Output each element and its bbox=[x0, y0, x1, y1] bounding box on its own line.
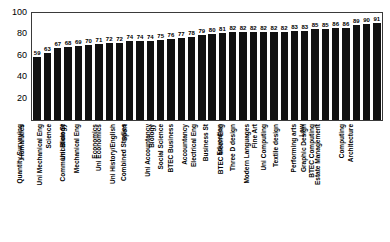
bar bbox=[208, 34, 215, 120]
bars-layer: 5963676869707172727474747576777879808182… bbox=[32, 13, 382, 120]
y-tick-label: 20 bbox=[17, 94, 27, 103]
bar-slot: 71 bbox=[95, 13, 102, 120]
bar-slot: 67 bbox=[54, 13, 61, 120]
y-axis: 10080604020 bbox=[0, 12, 30, 120]
bar-slot: 72 bbox=[106, 13, 113, 120]
x-tick-label: Uni Mechanical Eng bbox=[36, 124, 43, 185]
bar bbox=[44, 53, 51, 120]
bar-slot: 83 bbox=[291, 13, 298, 120]
x-tick-label: Uni Computing bbox=[260, 124, 267, 171]
bar bbox=[301, 31, 308, 120]
bar bbox=[126, 41, 133, 120]
bar bbox=[239, 32, 246, 120]
bar-value-label: 69 bbox=[75, 39, 82, 45]
bar bbox=[136, 41, 143, 120]
bar-value-label: 74 bbox=[126, 34, 133, 40]
bar bbox=[167, 39, 174, 120]
bar bbox=[95, 44, 102, 120]
bar bbox=[363, 24, 370, 120]
bar-value-label: 82 bbox=[250, 25, 257, 31]
bar-slot: 77 bbox=[178, 13, 185, 120]
bar-slot: 86 bbox=[342, 13, 349, 120]
bar-value-label: 68 bbox=[65, 40, 72, 46]
bar-value-label: 67 bbox=[54, 41, 61, 47]
plot-area: 5963676869707172727474747576777879808182… bbox=[31, 12, 383, 121]
x-tick-label: Textile design bbox=[272, 124, 279, 167]
x-tick-label: Estate Management bbox=[314, 124, 321, 185]
bar-slot: 76 bbox=[167, 13, 174, 120]
y-tick-label: 100 bbox=[12, 8, 27, 17]
bar-chart: 10080604020 5963676869707172727474747576… bbox=[0, 0, 390, 242]
x-tick-label: BTEC Mech Eng bbox=[217, 124, 224, 174]
bar bbox=[157, 40, 164, 120]
bar-slot: 86 bbox=[332, 13, 339, 120]
x-tick-label: Social Science bbox=[157, 124, 164, 170]
x-tick-label: Science bbox=[44, 124, 51, 149]
bar-slot: 82 bbox=[250, 13, 257, 120]
bar-value-label: 91 bbox=[374, 16, 381, 22]
bar bbox=[188, 37, 195, 120]
bar bbox=[198, 35, 205, 120]
bar-slot: 79 bbox=[198, 13, 205, 120]
y-tick-label: 80 bbox=[17, 29, 27, 38]
bar-value-label: 59 bbox=[34, 50, 41, 56]
bar-slot: 78 bbox=[188, 13, 195, 120]
bar-value-label: 81 bbox=[219, 26, 226, 32]
bar bbox=[33, 57, 40, 120]
bar bbox=[260, 32, 267, 120]
bar bbox=[322, 29, 329, 120]
bar-value-label: 82 bbox=[229, 25, 236, 31]
x-tick-label: Combined Studies bbox=[121, 124, 128, 181]
x-tick-label: Uni Accountancy bbox=[144, 124, 151, 177]
bar bbox=[229, 32, 236, 120]
bar bbox=[147, 41, 154, 120]
x-tick-label: Communication St bbox=[59, 124, 66, 181]
bar-slot: 85 bbox=[311, 13, 318, 120]
bar-slot: 83 bbox=[301, 13, 308, 120]
x-tick-label: Accountancy bbox=[180, 124, 187, 165]
x-tick-label: Uni Economics bbox=[95, 124, 102, 171]
x-tick-label: BTEC Business bbox=[166, 124, 173, 172]
x-tick-label: Uni History/English bbox=[109, 124, 116, 184]
bar-value-label: 79 bbox=[199, 28, 206, 34]
x-tick-label: Fine Art bbox=[250, 124, 257, 148]
bar-slot: 91 bbox=[373, 13, 380, 120]
bar-value-label: 80 bbox=[209, 27, 216, 33]
bar bbox=[342, 28, 349, 120]
bar-value-label: 70 bbox=[85, 38, 92, 44]
bar-slot: 68 bbox=[64, 13, 71, 120]
bar-value-label: 75 bbox=[157, 33, 164, 39]
bar-slot: 89 bbox=[353, 13, 360, 120]
x-axis: HumanitiesQuantity SurveyingScienceUni M… bbox=[31, 122, 383, 242]
bar-value-label: 83 bbox=[301, 24, 308, 30]
x-tick-label: Computing bbox=[338, 124, 345, 158]
bar-value-label: 72 bbox=[116, 36, 123, 42]
x-tick-slot: Uni Computing bbox=[278, 122, 288, 242]
bar-value-label: 77 bbox=[178, 31, 185, 37]
bar-slot: 85 bbox=[322, 13, 329, 120]
bar bbox=[270, 32, 277, 120]
y-tick-label: 40 bbox=[17, 72, 27, 81]
bar-value-label: 63 bbox=[44, 46, 51, 52]
bar-value-label: 82 bbox=[271, 25, 278, 31]
bar-value-label: 74 bbox=[147, 34, 154, 40]
bar bbox=[54, 48, 61, 120]
bar-slot: 82 bbox=[239, 13, 246, 120]
x-tick-label: Graphic Design bbox=[300, 124, 307, 172]
x-tick-label: Modern Languages bbox=[243, 124, 250, 184]
bar bbox=[178, 38, 185, 120]
x-tick-label: Business St bbox=[203, 124, 210, 161]
bar-slot: 59 bbox=[33, 13, 40, 120]
x-tick-label: Architecture bbox=[346, 124, 353, 162]
x-tick-label: Mechanical Eng bbox=[73, 124, 80, 173]
bar-value-label: 89 bbox=[353, 18, 360, 24]
bar-slot: 82 bbox=[229, 13, 236, 120]
bar-slot: 81 bbox=[219, 13, 226, 120]
x-tick-slot: Architecture bbox=[360, 122, 370, 242]
bar bbox=[85, 45, 92, 120]
bar-slot: 74 bbox=[147, 13, 154, 120]
bar-value-label: 71 bbox=[96, 37, 103, 43]
bar bbox=[250, 32, 257, 120]
bar bbox=[75, 46, 82, 120]
bar-value-label: 82 bbox=[240, 25, 247, 31]
